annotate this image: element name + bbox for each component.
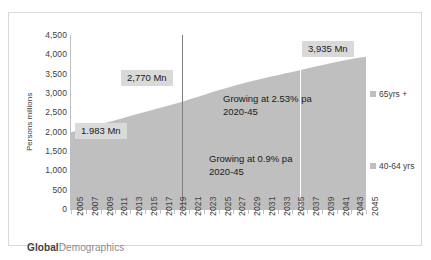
x-tick-mark: [263, 210, 264, 214]
y-tick-label: 2,500: [21, 107, 67, 117]
legend-swatch-icon: [370, 91, 376, 97]
x-tick-mark: [204, 210, 205, 214]
area-series-65plus: [71, 35, 366, 209]
annotation-mid-value: 2,770 Mn: [121, 70, 173, 86]
annotation-growth-lower: Growing at 0.9% pa 2020-45: [209, 153, 292, 178]
annotation-growth-upper: Growing at 2.53% pa 2020-45: [223, 93, 312, 118]
legend: 65yrs + 40-64 yrs: [369, 35, 431, 209]
annotation-end-value: 3,935 Mn: [302, 41, 354, 57]
x-tick-mark: [145, 210, 146, 214]
y-tick-label: 3,500: [21, 69, 67, 79]
chart-screenshot: Persons millions 4,5004,0003,5003,0002,5…: [0, 0, 431, 260]
x-tick-mark: [160, 210, 161, 214]
vline-2036: [300, 35, 301, 209]
plot-inner: [71, 35, 366, 209]
brand-light: Demographics: [59, 242, 125, 253]
x-tick-mark: [278, 210, 279, 214]
x-tick-label: 2041: [341, 196, 351, 216]
x-tick-label: 2031: [267, 196, 277, 216]
x-tick-mark: [307, 210, 308, 214]
annotation-growth-lower-line2: 2020-45: [209, 166, 292, 179]
y-tick-label: 2,000: [21, 127, 67, 137]
x-tick-mark: [189, 210, 190, 214]
legend-item-40-64[interactable]: 40-64 yrs: [370, 161, 420, 172]
x-tick-mark: [219, 210, 220, 214]
annotation-growth-upper-line1: Growing at 2.53% pa: [223, 93, 312, 106]
brand-bold: Global: [27, 242, 59, 253]
y-tick-label: 1,500: [21, 146, 67, 156]
x-tick-label: 2033: [282, 196, 292, 216]
brand-logo: GlobalDemographics: [27, 242, 124, 253]
legend-label-40-64: 40-64 yrs: [379, 161, 414, 172]
x-tick-mark: [115, 210, 116, 214]
y-axis-tick-labels: 4,5004,0003,5003,0002,5002,0001,5001,000…: [19, 35, 67, 209]
x-tick-label: 2007: [90, 196, 100, 216]
x-tick-mark: [366, 210, 367, 214]
x-tick-label: 2021: [193, 196, 203, 216]
x-tick-mark: [292, 210, 293, 214]
x-tick-mark: [86, 210, 87, 214]
x-tick-mark: [351, 210, 352, 214]
x-tick-label: 2023: [208, 196, 218, 216]
x-tick-mark: [337, 210, 338, 214]
plot-area: [71, 35, 366, 209]
x-tick-label: 2019: [178, 196, 188, 216]
x-tick-mark: [130, 210, 131, 214]
x-tick-label: 2013: [134, 196, 144, 216]
y-tick-label: 1,000: [21, 165, 67, 175]
x-tick-label: 2035: [296, 196, 306, 216]
y-tick-label: 4,500: [21, 30, 67, 40]
y-tick-label: 4,000: [21, 49, 67, 59]
y-tick-label: 500: [21, 185, 67, 195]
x-tick-mark: [322, 210, 323, 214]
x-tick-label: 2015: [149, 196, 159, 216]
x-tick-mark: [233, 210, 234, 214]
legend-item-65plus[interactable]: 65yrs +: [370, 89, 407, 100]
x-tick-mark: [248, 210, 249, 214]
x-tick-label: 2037: [311, 196, 321, 216]
x-tick-label: 2011: [119, 197, 129, 216]
x-tick-label: 2039: [326, 196, 336, 216]
x-tick-label: 2043: [355, 196, 365, 216]
y-tick-label: 3,000: [21, 88, 67, 98]
annotation-growth-upper-line2: 2020-45: [223, 106, 312, 119]
x-tick-label: 2027: [237, 196, 247, 216]
legend-label-65plus: 65yrs +: [379, 89, 407, 100]
legend-swatch-icon: [370, 163, 376, 169]
x-tick-label: 2029: [252, 196, 262, 216]
annotation-growth-lower-line1: Growing at 0.9% pa: [209, 153, 292, 166]
x-tick-mark: [71, 210, 72, 214]
x-tick-label: 2025: [223, 196, 233, 216]
x-tick-mark: [101, 210, 102, 214]
x-tick-label: 2005: [75, 196, 85, 216]
x-tick-label: 2009: [105, 196, 115, 216]
chart-frame: Persons millions 4,5004,0003,5003,0002,5…: [8, 12, 422, 246]
x-tick-label: 2017: [164, 196, 174, 216]
x-tick-mark: [174, 210, 175, 214]
vline-2020: [182, 35, 183, 209]
annotation-start-value: 1.983 Mn: [75, 123, 127, 139]
y-tick-label: 0: [21, 204, 67, 214]
